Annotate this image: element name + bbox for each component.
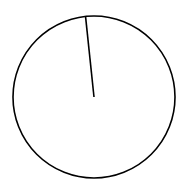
pie-chart [0, 0, 182, 187]
pie-slices [13, 16, 175, 178]
